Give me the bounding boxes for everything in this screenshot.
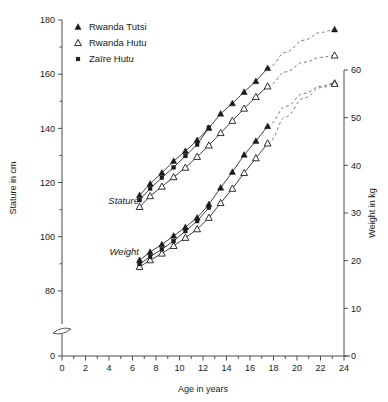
chart-canvas: 0801001201401601800102030405060024681012… <box>0 0 388 402</box>
y-axis-left-tick-label: 140 <box>40 124 55 134</box>
data-point-marker <box>207 126 211 130</box>
y-axis-right-tick-label: 0 <box>351 351 356 361</box>
y-axis-left-tick-label: 100 <box>40 232 55 242</box>
data-point-marker <box>138 262 142 266</box>
series-line-extrapolated <box>268 83 335 126</box>
x-axis-tick-label: 4 <box>106 363 111 373</box>
data-point-marker <box>148 255 152 259</box>
curve-annotation-stature: Stature <box>108 195 139 206</box>
adult-endpoint-marker <box>331 52 338 58</box>
data-point-marker <box>160 247 164 251</box>
data-series-group <box>136 26 338 269</box>
legend-item[interactable]: Rwanda Tutsi <box>75 21 147 32</box>
adult-endpoint-marker <box>331 80 338 86</box>
x-axis-tick-label: 12 <box>198 363 208 373</box>
series-line <box>140 68 268 195</box>
y-axis-left-tick-label: 80 <box>45 286 55 296</box>
x-axis-tick-label: 6 <box>130 363 135 373</box>
series-line-extrapolated <box>268 84 335 144</box>
x-axis-tick-label: 2 <box>83 363 88 373</box>
data-point-marker <box>195 143 199 147</box>
x-axis-tick-label: 24 <box>339 363 349 373</box>
series-rwanda-hutu-stature <box>136 52 338 210</box>
data-point-marker <box>171 158 177 164</box>
data-point-marker <box>136 257 142 263</box>
x-axis-tick-label: 16 <box>245 363 255 373</box>
data-point-marker <box>171 233 177 239</box>
data-point-marker <box>207 206 211 210</box>
data-point-marker <box>160 176 164 180</box>
legend: Rwanda TutsiRwanda HutuZaïre Hutu <box>75 21 147 64</box>
y-axis-right-tick-label: 50 <box>351 113 361 123</box>
legend-marker <box>76 57 80 61</box>
series-rwanda-tutsi-weight <box>136 80 337 263</box>
data-point-marker <box>147 249 153 255</box>
data-point-marker <box>183 154 187 158</box>
legend-label: Rwanda Hutu <box>89 37 147 48</box>
legend-marker <box>75 39 82 45</box>
series-line-extrapolated <box>268 29 335 68</box>
curve-annotations: StatureWeight <box>108 195 139 257</box>
data-point-marker <box>158 183 165 189</box>
y-axis-right-tick-label: 10 <box>351 304 361 314</box>
x-axis-tick-label: 14 <box>221 363 231 373</box>
axis-break-symbol <box>53 328 71 334</box>
data-point-marker <box>182 234 189 240</box>
legend-item[interactable]: Rwanda Hutu <box>75 37 147 48</box>
x-axis-tick-label: 20 <box>292 363 302 373</box>
data-point-marker <box>170 174 177 180</box>
data-point-marker <box>172 165 176 169</box>
y-axis-left-tick-label: 160 <box>40 69 55 79</box>
legend-label: Rwanda Tutsi <box>89 21 147 32</box>
curve-annotation-weight: Weight <box>110 246 140 257</box>
y-axis-left-tick-label: 120 <box>40 178 55 188</box>
x-axis-tick-label: 8 <box>153 363 158 373</box>
growth-chart-figure: 0801001201401601800102030405060024681012… <box>0 0 388 402</box>
data-point-marker <box>159 241 165 247</box>
legend-item[interactable]: Zaïre Hutu <box>76 53 134 64</box>
data-point-marker <box>172 239 176 243</box>
y-axis-right-tick-label: 60 <box>351 65 361 75</box>
x-axis-tick-label: 0 <box>59 363 64 373</box>
y-axis-left-tick-label: 180 <box>40 15 55 25</box>
series-line <box>140 126 268 260</box>
x-axis-tick-label: 10 <box>174 363 184 373</box>
data-point-marker <box>183 229 187 233</box>
x-axis-tick-label: 22 <box>315 363 325 373</box>
y-axis-right-tick-label: 20 <box>351 256 361 266</box>
y-axis-right-tick-label: 40 <box>351 161 361 171</box>
data-point-marker <box>148 187 152 191</box>
x-axis-tick-label: 18 <box>268 363 278 373</box>
data-point-marker <box>195 219 199 223</box>
axes-group: 0801001201401601800102030405060024681012… <box>8 15 377 394</box>
data-point-marker <box>147 192 154 198</box>
x-axis-title: Age in years <box>178 384 229 394</box>
adult-endpoint-marker <box>332 26 338 32</box>
series-line <box>140 143 268 266</box>
series-rwanda-tutsi-stature <box>136 26 337 197</box>
data-point-marker <box>264 140 271 146</box>
y-axis-right-tick-label: 30 <box>351 208 361 218</box>
y-axis-left-tick-label: 0 <box>50 351 55 361</box>
legend-marker <box>75 24 81 30</box>
y-axis-left-title: Stature in cm <box>8 161 18 214</box>
y-axis-right-title: Weight in kg <box>367 188 377 237</box>
legend-label: Zaïre Hutu <box>89 53 134 64</box>
